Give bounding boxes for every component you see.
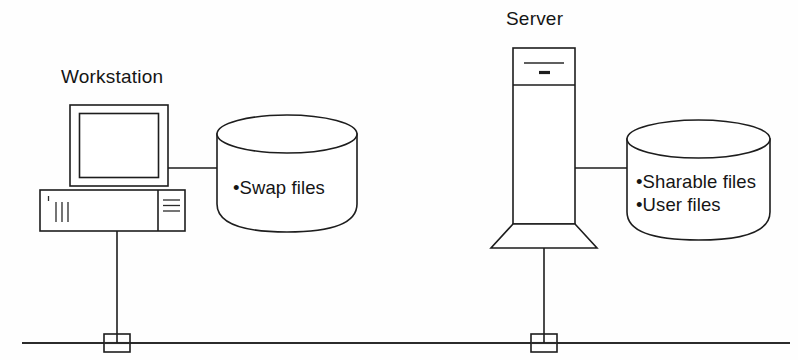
swap-disk-top-ellipse [217, 115, 357, 153]
network-bus[interactable] [22, 334, 790, 352]
workstation-disk-contents: •Swap files [233, 176, 325, 199]
server-disk-line-1: •Sharable files [636, 170, 756, 193]
server-node[interactable] [491, 48, 627, 343]
server-stand-base [491, 224, 597, 248]
server-disk-top-ellipse [627, 120, 770, 158]
workstation-title-label: Workstation [61, 66, 163, 88]
server-disk-contents: •Sharable files •User files [636, 170, 756, 216]
server-disk-line-2: •User files [636, 193, 756, 216]
server-title-label: Server [506, 8, 563, 30]
server-tower-body [513, 48, 575, 224]
workstation-disk-node[interactable] [217, 115, 357, 232]
workstation-node[interactable] [40, 105, 217, 343]
diagram-canvas: Workstation Server •Swap files •Sharable… [0, 0, 798, 360]
workstation-disk-line-1: •Swap files [233, 176, 325, 199]
workstation-monitor-screen [80, 114, 159, 178]
